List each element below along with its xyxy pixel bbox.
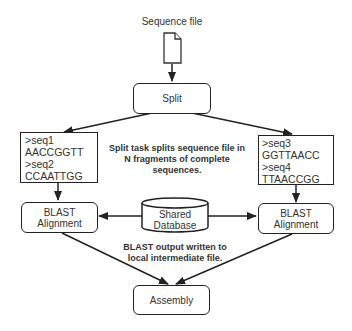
- fragment-right-sequence-1: GGTTAACC: [262, 149, 320, 161]
- database-label: Shared Database: [142, 208, 208, 232]
- blast-note: BLAST output written to local intermedia…: [110, 242, 240, 264]
- fragment-right-header-2: >seq4: [262, 161, 320, 173]
- split-note-line-1: Split task splits sequence file in: [103, 143, 251, 154]
- split-note: Split task splits sequence file in N fra…: [103, 143, 251, 176]
- fragment-left-sequence-2: CCAATTGG: [25, 170, 83, 182]
- fragment-left-header-1: >seq1: [25, 134, 83, 146]
- fragment-left-header-2: >seq2: [25, 158, 83, 170]
- assembly-label: Assembly: [133, 285, 210, 315]
- blast-note-line-1: BLAST output written to: [110, 242, 240, 253]
- blast-left-line-1: BLAST: [44, 207, 76, 218]
- split-note-line-3: sequences.: [103, 165, 251, 176]
- blast-note-line-2: local intermediate file.: [110, 253, 240, 264]
- blast-right-line-2: Alignment: [274, 219, 318, 230]
- fragment-left-text: >seq1 AACCGGTT >seq2 CCAATTGG: [25, 134, 83, 182]
- database-line-2: Database: [154, 220, 197, 231]
- sequence-file-label: Sequence file: [132, 16, 212, 28]
- arrow-split-to-fragment-left: [64, 113, 152, 132]
- database-line-1: Shared: [159, 209, 191, 220]
- blast-left-label: BLAST Alignment: [21, 202, 98, 233]
- blast-right-line-1: BLAST: [280, 208, 312, 219]
- split-note-line-2: N fragments of complete: [103, 154, 251, 165]
- blast-right-label: BLAST Alignment: [258, 203, 334, 234]
- fragment-right-text: >seq3 GGTTAACC >seq4 TTAACCGG: [262, 137, 320, 185]
- split-label: Split: [133, 83, 211, 114]
- fragment-right-header-1: >seq3: [262, 137, 320, 149]
- fragment-left-sequence-1: AACCGGTT: [25, 146, 83, 158]
- arrow-split-to-fragment-right: [192, 113, 292, 134]
- blast-left-line-2: Alignment: [37, 218, 81, 229]
- fragment-right-sequence-2: TTAACCGG: [262, 173, 320, 185]
- document-icon: [164, 33, 181, 63]
